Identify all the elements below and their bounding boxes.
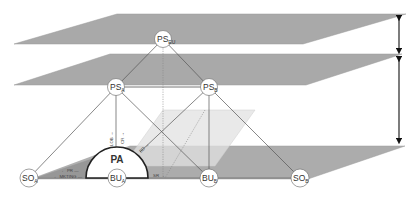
lob-label: LOB → [109,132,114,146]
node-bu-a: BUA [108,169,126,187]
top-plane [14,14,406,44]
sr-label: SR → [153,173,165,178]
mkting-label: ← MKTING — [54,174,83,179]
pa-label: PA [110,154,123,165]
node-bu-b: BUB [200,169,218,187]
multilevel-organization-diagram: PA ← PR — ← MKTING — LOB → CR → BD → SR … [0,0,412,198]
pr-label: ← PR — [61,168,79,173]
cr-label: CR → [120,132,125,144]
node-so-b: SOB [291,169,309,187]
node-so-a: SOA [20,169,38,187]
